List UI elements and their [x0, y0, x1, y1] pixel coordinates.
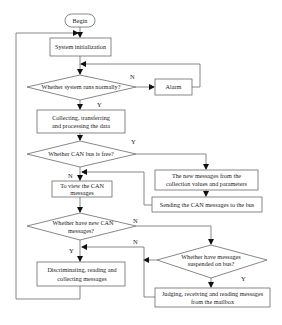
- init-label: System initialization: [55, 43, 106, 50]
- edge-new-suspended: [136, 226, 211, 244]
- edge-loop-to-init: [16, 33, 80, 299]
- check-new-line2: messages?: [68, 227, 94, 234]
- discriminate-line2: collecting messages: [57, 275, 107, 282]
- new-yes-label: Y: [69, 247, 74, 254]
- check-bus-label: Whether CAN bus is free?: [48, 150, 114, 157]
- bus-no-label: N: [68, 172, 73, 179]
- suspended-no-label: N: [133, 238, 138, 245]
- view-label-line2: messages: [70, 189, 94, 196]
- check-suspended-line2: suspended on bus?: [188, 260, 235, 267]
- new-messages-line1: The new messages from the: [172, 172, 241, 179]
- bus-yes-label: Y: [131, 138, 136, 145]
- judge-line1: Judging, receiving and reading messages: [162, 290, 264, 297]
- flowchart-canvas: Begin System initialization Whether syst…: [0, 0, 282, 325]
- edge-bus-new-messages: [136, 154, 206, 169]
- send-label: Sending the CAN messages to the bus: [160, 201, 255, 208]
- system-yes-label: Y: [97, 101, 102, 108]
- new-messages-line2: collection values and parameters: [166, 180, 248, 187]
- judge-line2: from the mailbox: [191, 298, 235, 305]
- system-no-label: N: [130, 73, 135, 80]
- check-suspended-line1: Whether have messages: [181, 253, 241, 260]
- new-no-label: N: [133, 217, 138, 224]
- begin-label: Begin: [73, 17, 88, 24]
- suspended-yes-label: Y: [241, 275, 246, 282]
- collect-label-line2: and processing the data: [52, 122, 110, 129]
- collect-label-line1: Collecting, transferring: [52, 114, 110, 121]
- discriminate-line1: Discriminating, reading and: [47, 266, 117, 273]
- alarm-label: Alarm: [166, 83, 182, 90]
- check-system-label: Whether system runs normally?: [42, 83, 121, 90]
- check-new-line1: Whether have new CAN: [53, 219, 115, 226]
